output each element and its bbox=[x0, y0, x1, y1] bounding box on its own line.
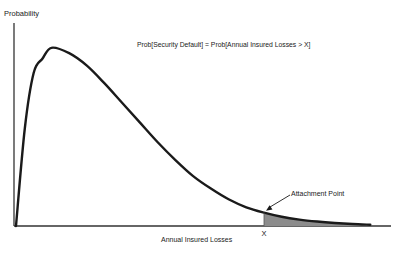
attachment-x-tick-label: X bbox=[261, 229, 266, 238]
default-probability-formula: Prob[Security Default] = Prob[Annual Ins… bbox=[137, 41, 311, 49]
x-axis-label: Annual Insured Losses bbox=[161, 236, 233, 243]
distribution-curve bbox=[16, 48, 370, 226]
y-axis-label: Probability bbox=[4, 9, 39, 18]
arrow-shaft bbox=[269, 195, 290, 208]
loss-distribution-chart: Probability Annual Insured Losses X Prob… bbox=[0, 0, 393, 253]
attachment-point-label: Attachment Point bbox=[291, 190, 344, 197]
attachment-point-arrow bbox=[266, 195, 290, 211]
